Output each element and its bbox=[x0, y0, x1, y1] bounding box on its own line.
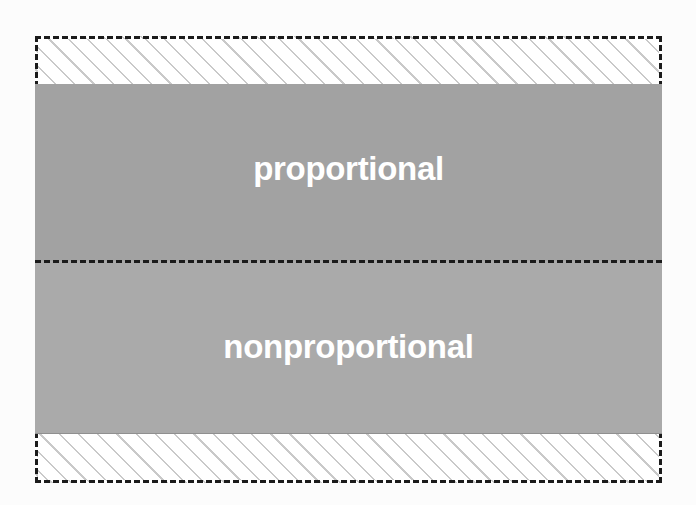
region-nonproportional-label: nonproportional bbox=[223, 330, 473, 363]
figure-canvas: proportional nonproportional bbox=[0, 0, 696, 505]
grey-region-stack: proportional nonproportional bbox=[35, 84, 662, 434]
hatch-grey-seam-bottom bbox=[35, 433, 662, 434]
region-nonproportional: nonproportional bbox=[35, 261, 662, 434]
dashed-divider bbox=[35, 260, 662, 263]
region-proportional: proportional bbox=[35, 84, 662, 261]
region-proportional-label: proportional bbox=[253, 152, 444, 185]
